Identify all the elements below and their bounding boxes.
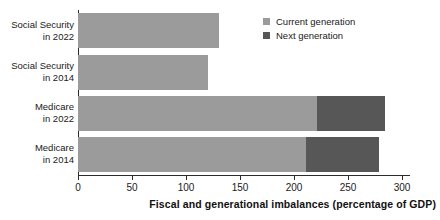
category-label-line1: Medicare — [0, 101, 74, 113]
x-tick-label: 0 — [58, 182, 98, 193]
category-label-medicare-2014: Medicare in 2014 — [0, 142, 74, 165]
x-tick-mark — [348, 175, 349, 180]
bar-segment-current-generation — [78, 137, 306, 172]
x-tick-mark — [240, 175, 241, 180]
x-tick-label: 250 — [328, 182, 368, 193]
x-tick-label: 200 — [274, 182, 314, 193]
category-label-line1: Social Security — [0, 60, 74, 72]
bar-segment-current-generation — [78, 55, 208, 90]
category-labels: Social Security in 2022 Social Security … — [0, 10, 74, 175]
legend-label-current-generation: Current generation — [276, 16, 355, 27]
x-tick-label: 150 — [220, 182, 260, 193]
legend-item-current-generation: Current generation — [263, 15, 355, 27]
x-tick-label: 100 — [166, 182, 206, 193]
category-label-line2: in 2014 — [0, 72, 74, 84]
x-tick-mark — [294, 175, 295, 180]
category-label-social-security-2014: Social Security in 2014 — [0, 60, 74, 83]
bar-segment-current-generation — [78, 96, 317, 131]
x-tick-mark — [186, 175, 187, 180]
bar-segment-current-generation — [78, 13, 219, 48]
chart-container: Social Security in 2022 Social Security … — [0, 0, 440, 220]
category-label-medicare-2022: Medicare in 2022 — [0, 101, 74, 124]
category-label-line2: in 2022 — [0, 31, 74, 43]
legend-label-next-generation: Next generation — [276, 30, 343, 41]
x-tick-label: 50 — [112, 182, 152, 193]
legend-item-next-generation: Next generation — [263, 29, 355, 41]
legend: Current generation Next generation — [263, 15, 355, 43]
bar-segment-next-generation — [317, 96, 385, 131]
x-tick-mark — [132, 175, 133, 180]
category-label-line2: in 2022 — [0, 113, 74, 125]
category-label-social-security-2022: Social Security in 2022 — [0, 19, 74, 42]
legend-swatch-next-generation — [263, 32, 270, 39]
x-tick-label: 300 — [382, 182, 422, 193]
x-axis-line — [78, 175, 410, 176]
category-label-line2: in 2014 — [0, 154, 74, 166]
x-tick-mark — [402, 175, 403, 180]
category-label-line1: Social Security — [0, 19, 74, 31]
bar-segment-next-generation — [306, 137, 379, 172]
legend-swatch-current-generation — [263, 18, 270, 25]
category-label-line1: Medicare — [0, 142, 74, 154]
x-tick-mark — [78, 175, 79, 180]
x-axis-title: Fiscal and generational imbalances (perc… — [0, 198, 436, 210]
